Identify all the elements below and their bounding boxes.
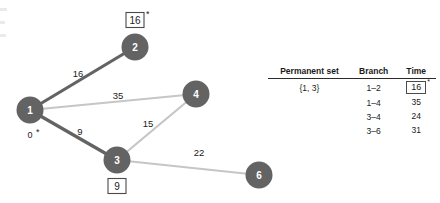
edge-weight-1-3: 9: [77, 126, 82, 137]
time-value: 35: [396, 95, 436, 109]
permanent-set-spacer: [268, 109, 351, 123]
node-layer: 12346: [17, 34, 273, 189]
graph-node-label-2: 2: [132, 42, 138, 53]
shortest-path-figure-page: 12346 163591522 0*16*9 Permanent set Bra…: [0, 0, 440, 203]
node-distance-star-1: *: [36, 127, 40, 137]
time-value-plain: 31: [411, 125, 420, 136]
edge-layer: [30, 47, 259, 175]
edge-weight-3-6: 22: [194, 147, 205, 158]
column-header-time: Time: [396, 66, 436, 79]
node-distance-label-3: 9: [114, 181, 120, 192]
time-value-plain: 24: [411, 111, 420, 122]
network-graph-svg: 12346 163591522 0*16*9: [0, 0, 280, 203]
network-graph: 12346 163591522 0*16*9: [0, 0, 280, 203]
time-value-boxed: 16: [406, 81, 426, 94]
time-value-star: *: [427, 78, 430, 85]
edge-weight-layer: 163591522: [73, 68, 205, 158]
time-value-plain: 35: [411, 97, 420, 108]
graph-edge-1-3: [30, 110, 117, 160]
graph-node-label-1: 1: [27, 105, 33, 116]
iteration-table: Permanent set Branch Time {1, 3}1–216*1–…: [268, 66, 436, 137]
node-distance-label-1: 0: [27, 130, 32, 140]
graph-node-label-6: 6: [256, 170, 262, 181]
edge-weight-3-4: 15: [143, 118, 154, 129]
edge-weight-1-2: 16: [73, 68, 84, 79]
table-row: 1–435: [268, 95, 436, 109]
time-value: 24: [396, 109, 436, 123]
table-body: {1, 3}1–216*1–4353–4243–631: [268, 79, 436, 138]
node-distance-label-2: 16: [129, 15, 141, 26]
graph-node-label-3: 3: [114, 155, 120, 166]
table-row: 3–424: [268, 109, 436, 123]
graph-node-label-4: 4: [193, 89, 199, 100]
branch-value: 3–6: [351, 123, 396, 137]
table-header: Permanent set Branch Time: [268, 66, 436, 79]
branch-value: 1–2: [351, 79, 396, 96]
table-row: 3–631: [268, 123, 436, 137]
graph-edge-3-4: [117, 94, 196, 160]
edge-weight-1-4: 35: [113, 90, 124, 101]
column-header-permanent-set: Permanent set: [268, 66, 351, 79]
time-value: 16*: [396, 79, 436, 96]
graph-edge-3-6: [117, 160, 259, 175]
node-distance-star-2: *: [146, 9, 150, 19]
column-header-branch: Branch: [351, 66, 396, 79]
branch-value: 3–4: [351, 109, 396, 123]
branch-value: 1–4: [351, 95, 396, 109]
table-header-row: Permanent set Branch Time: [268, 66, 436, 79]
table-row: {1, 3}1–216*: [268, 79, 436, 96]
permanent-set-spacer: [268, 95, 351, 109]
time-value: 31: [396, 123, 436, 137]
permanent-set-value: {1, 3}: [268, 79, 351, 96]
permanent-set-spacer: [268, 123, 351, 137]
iteration-table-grid: Permanent set Branch Time {1, 3}1–216*1–…: [268, 66, 436, 137]
